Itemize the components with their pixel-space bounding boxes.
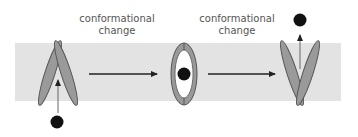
transporter-state-2 [171,43,197,105]
transporter-diagram [0,0,358,137]
ligand-bound [178,68,191,81]
ligand-released [294,14,307,27]
ligand-outside [51,116,64,129]
